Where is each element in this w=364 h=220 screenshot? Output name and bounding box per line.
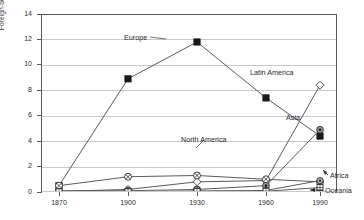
x-tick-mark: [128, 192, 129, 196]
y-tick-label: 0: [6, 188, 32, 195]
x-tick-mark: [197, 192, 198, 196]
y-tick-label: 10: [6, 60, 32, 67]
y-tick-label: 12: [6, 35, 32, 42]
chart-container: Foreign-born Residents (millions) 14 12 …: [0, 0, 364, 220]
y-tick-label: 4: [6, 137, 32, 144]
y-tick-label: 14: [6, 10, 32, 17]
gridline: [42, 39, 336, 40]
y-axis-title: Foreign-born Residents (millions): [0, 0, 5, 40]
x-tick-label: 1960: [246, 199, 286, 206]
series-label-europe: Europe: [124, 33, 147, 42]
x-tick-label: 1930: [177, 199, 217, 206]
gridline: [42, 167, 336, 168]
series-label-asia: Asia: [286, 113, 300, 122]
series-label-north-america: North America: [181, 135, 227, 144]
x-tick-mark: [266, 192, 267, 196]
plot-area: [41, 14, 337, 192]
x-tick-label: 1900: [108, 199, 148, 206]
y-tick-label: 2: [6, 162, 32, 169]
gridline: [42, 90, 336, 91]
series-label-oceania: Oceania: [325, 186, 352, 195]
y-tick-label: 8: [6, 86, 32, 93]
series-label-africa: Africa: [330, 171, 348, 180]
y-tick-label: 6: [6, 111, 32, 118]
x-tick-mark: [59, 192, 60, 196]
x-tick-label: 1990: [300, 199, 340, 206]
x-tick-label: 1870: [39, 199, 79, 206]
gridline: [42, 191, 336, 192]
x-tick-mark: [320, 192, 321, 196]
series-label-latin-america: Latin America: [250, 68, 294, 77]
y-tick-mark: [37, 192, 42, 193]
gridline: [42, 65, 336, 66]
